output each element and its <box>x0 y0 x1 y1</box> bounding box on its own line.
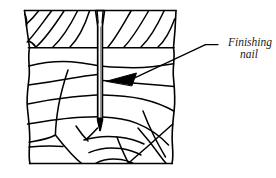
background <box>0 0 276 178</box>
finishing-nail <box>96 11 105 131</box>
figure-container: Finishing nail <box>0 0 276 178</box>
nail-body <box>96 11 105 131</box>
callout-label-line-2: nail <box>240 48 258 61</box>
callout-label-line-1: Finishing <box>228 36 272 49</box>
finishing-nail-illustration <box>0 0 276 178</box>
